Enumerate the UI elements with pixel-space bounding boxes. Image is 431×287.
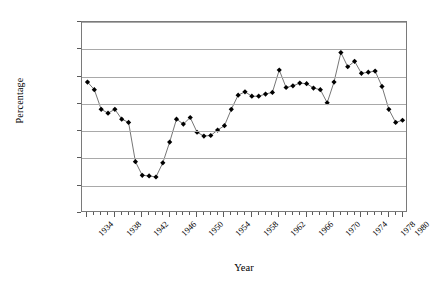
data-point-marker bbox=[379, 84, 384, 89]
x-tick-mark-minor bbox=[299, 212, 300, 215]
x-tick-mark-major bbox=[86, 212, 87, 217]
x-tick-mark-minor bbox=[237, 212, 238, 215]
x-tick-mark-minor bbox=[121, 212, 122, 215]
x-tick-mark-minor bbox=[155, 212, 156, 215]
data-point-marker bbox=[338, 50, 343, 55]
data-point-marker bbox=[304, 81, 309, 86]
data-point-marker bbox=[400, 118, 405, 123]
x-tick-mark-major bbox=[114, 212, 115, 217]
x-tick-mark-major bbox=[223, 212, 224, 217]
y-tick-mark bbox=[77, 157, 81, 158]
x-tick-mark-minor bbox=[244, 212, 245, 215]
x-tick-mark-minor bbox=[203, 212, 204, 215]
x-tick-mark-minor bbox=[292, 212, 293, 215]
y-gridline bbox=[82, 49, 406, 50]
x-tick-label: 1958 bbox=[261, 219, 280, 238]
data-point-marker bbox=[311, 85, 316, 90]
y-tick-mark bbox=[77, 185, 81, 186]
data-point-marker bbox=[105, 111, 110, 116]
x-tick-mark-major bbox=[278, 212, 279, 217]
data-point-marker bbox=[256, 94, 261, 99]
x-tick-mark-minor bbox=[93, 212, 94, 215]
x-tick-mark-minor bbox=[230, 212, 231, 215]
data-point-marker bbox=[236, 93, 241, 98]
data-point-marker bbox=[201, 133, 206, 138]
data-point-marker bbox=[331, 79, 336, 84]
y-tick-mark bbox=[77, 130, 81, 131]
x-tick-mark-minor bbox=[189, 212, 190, 215]
x-tick-mark-minor bbox=[182, 212, 183, 215]
data-point-marker bbox=[140, 173, 145, 178]
x-tick-mark-major bbox=[141, 212, 142, 217]
data-point-marker bbox=[167, 139, 172, 144]
x-tick-mark-minor bbox=[107, 212, 108, 215]
x-tick-label: 1938 bbox=[124, 219, 143, 238]
y-gridline bbox=[82, 104, 406, 105]
data-point-marker bbox=[393, 120, 398, 125]
data-point-marker bbox=[242, 89, 247, 94]
data-point-marker bbox=[386, 107, 391, 112]
data-point-marker bbox=[290, 83, 295, 88]
data-point-marker bbox=[270, 90, 275, 95]
y-gridline bbox=[82, 77, 406, 78]
x-tick-mark-minor bbox=[326, 212, 327, 215]
x-tick-mark-major bbox=[169, 212, 170, 217]
x-tick-mark-minor bbox=[148, 212, 149, 215]
x-tick-mark-major bbox=[388, 212, 389, 217]
data-point-marker bbox=[366, 70, 371, 75]
x-tick-mark-minor bbox=[312, 212, 313, 215]
plot-area bbox=[81, 21, 407, 212]
x-tick-label: 1954 bbox=[233, 219, 252, 238]
x-tick-mark-minor bbox=[162, 212, 163, 215]
x-tick-mark-minor bbox=[210, 212, 211, 215]
x-tick-mark-minor bbox=[258, 212, 259, 215]
data-point-marker bbox=[229, 107, 234, 112]
data-point-marker bbox=[277, 67, 282, 72]
x-tick-mark-minor bbox=[374, 212, 375, 215]
x-tick-label: 1980 bbox=[412, 219, 431, 238]
y-gridline bbox=[82, 131, 406, 132]
x-tick-mark-minor bbox=[271, 212, 272, 215]
data-point-marker bbox=[99, 107, 104, 112]
data-point-marker bbox=[283, 85, 288, 90]
y-tick-mark bbox=[77, 76, 81, 77]
data-point-marker bbox=[133, 159, 138, 164]
data-point-marker bbox=[263, 91, 268, 96]
x-tick-mark-minor bbox=[100, 212, 101, 215]
x-tick-label: 1962 bbox=[288, 219, 307, 238]
x-tick-label: 1970 bbox=[343, 219, 362, 238]
x-tick-mark-minor bbox=[354, 212, 355, 215]
data-point-marker bbox=[318, 87, 323, 92]
data-point-marker bbox=[222, 123, 227, 128]
x-tick-mark-minor bbox=[347, 212, 348, 215]
x-tick-mark-major bbox=[306, 212, 307, 217]
y-gridline bbox=[82, 186, 406, 187]
x-tick-mark-major bbox=[333, 212, 334, 217]
y-axis-title: Percentage bbox=[14, 56, 25, 146]
x-tick-mark-major bbox=[360, 212, 361, 217]
y-tick-mark bbox=[77, 212, 81, 213]
x-tick-mark-minor bbox=[381, 212, 382, 215]
x-tick-mark-major bbox=[196, 212, 197, 217]
data-series bbox=[82, 22, 408, 213]
x-tick-mark-minor bbox=[134, 212, 135, 215]
x-tick-label: 1934 bbox=[97, 219, 116, 238]
x-tick-label: 1974 bbox=[370, 219, 389, 238]
data-point-marker bbox=[126, 120, 131, 125]
x-tick-mark-minor bbox=[395, 212, 396, 215]
y-tick-mark bbox=[77, 48, 81, 49]
data-point-marker bbox=[373, 69, 378, 74]
x-tick-mark-minor bbox=[217, 212, 218, 215]
data-point-marker bbox=[297, 81, 302, 86]
y-tick-mark bbox=[77, 103, 81, 104]
data-point-marker bbox=[249, 94, 254, 99]
x-tick-mark-minor bbox=[319, 212, 320, 215]
x-tick-mark-minor bbox=[340, 212, 341, 215]
y-tick-mark bbox=[77, 21, 81, 22]
x-tick-label: 1946 bbox=[179, 219, 198, 238]
data-point-marker bbox=[153, 174, 158, 179]
x-tick-mark-major bbox=[251, 212, 252, 217]
x-tick-label: 1942 bbox=[151, 219, 170, 238]
y-gridline bbox=[82, 22, 406, 23]
